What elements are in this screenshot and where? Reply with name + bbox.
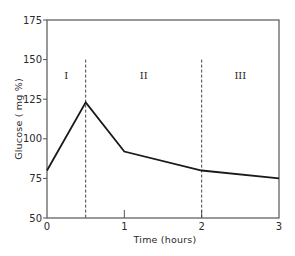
phase-labels: IIIIII [64,70,246,81]
plot-border [47,20,279,218]
x-tick-label: 3 [276,221,282,232]
phase-label: II [140,70,148,81]
x-axis-ticks: 0123 [44,210,282,232]
phase-divider-lines [86,60,202,218]
x-tick-label: 2 [198,221,204,232]
y-tick-label: 50 [29,213,42,224]
plot-frame [47,20,279,218]
phase-label: I [64,70,68,81]
y-tick-label: 75 [29,173,42,184]
glucose-line-chart: 5075100125150175 0123 IIIIII Time (hours… [0,0,295,256]
y-axis-ticks: 5075100125150175 [23,15,47,224]
y-tick-label: 175 [23,15,42,26]
y-tick-label: 125 [23,94,42,105]
y-tick-label: 100 [23,133,42,144]
x-tick-label: 1 [121,221,127,232]
glucose-series-line [47,102,279,178]
x-tick-label: 0 [44,221,50,232]
x-axis-label: Time (hours) [133,234,197,245]
phase-label: III [234,70,246,81]
y-tick-label: 150 [23,54,42,65]
y-axis-label: Glucose ( mg %) [13,78,24,160]
